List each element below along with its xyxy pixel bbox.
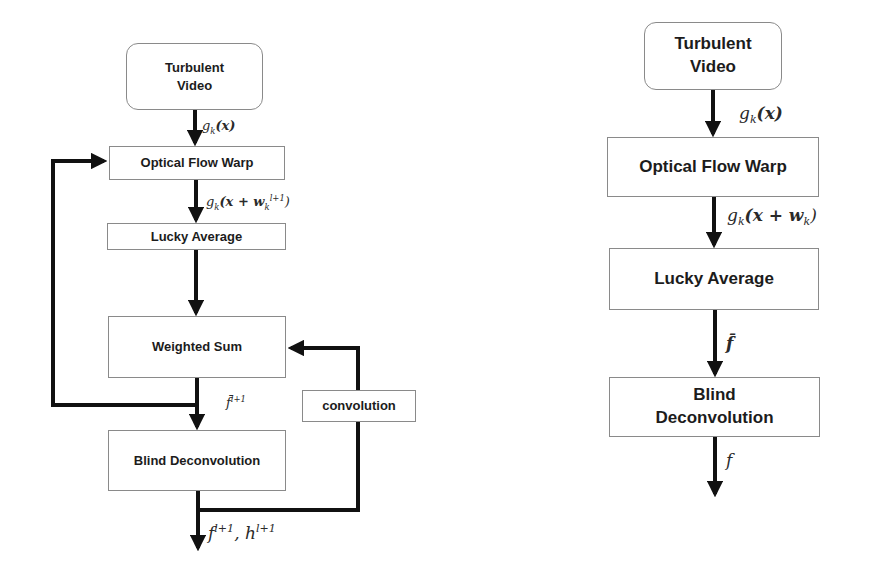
label-fbar-l1: f̄l+1 <box>226 394 246 410</box>
right-lucky-average-node: Lucky Average <box>609 248 819 310</box>
label-output-f-h: fl+1, hl+1 <box>208 522 276 543</box>
label-gk-x-plus-wk-l1: gk(x + wkl+1) <box>206 193 290 212</box>
left-optical-flow-warp-node: Optical Flow Warp <box>109 146 285 180</box>
r-label-fbar: f̄ <box>726 333 733 353</box>
right-blind-deconvolution-node: Blind Deconvolution <box>609 377 820 437</box>
left-lucky-average-node: Lucky Average <box>107 223 286 250</box>
left-turbulent-video-node: Turbulent Video <box>126 43 263 110</box>
label-close-paren: ) <box>810 205 817 225</box>
label-f-sup: l+1 <box>214 522 234 535</box>
label-separator: , <box>234 523 245 543</box>
r-label-gk-x: gk(x) <box>739 103 783 126</box>
r-label-gk-x-plus-wk: gk(x + wk) <box>727 205 817 228</box>
label-h: h <box>245 523 256 543</box>
label-sub-k: k <box>750 113 757 126</box>
label-g: g <box>739 103 750 123</box>
right-optical-flow-warp-node: Optical Flow Warp <box>607 137 819 197</box>
label-close-paren: ) <box>285 194 290 209</box>
label-sub-k: k <box>738 215 745 228</box>
label-fbar-sup: l+1 <box>231 394 246 404</box>
convolution-loop-upper <box>291 348 358 390</box>
left-weighted-sum-node: Weighted Sum <box>108 316 286 378</box>
label-x: (x) <box>757 103 783 123</box>
label-w-sub-k: k <box>265 202 270 212</box>
label-g: g <box>727 205 738 225</box>
label-x-plus-w: (x + w <box>745 205 804 225</box>
label-x: (x) <box>215 118 235 133</box>
label-gk-x: gk(x) <box>202 118 236 136</box>
left-convolution-node: convolution <box>302 390 416 422</box>
left-blind-deconvolution-node: Blind Deconvolution <box>108 430 286 491</box>
label-w-sup: l+1 <box>270 193 285 203</box>
label-x-plus-w: (x + w <box>219 194 264 209</box>
label-h-sup: l+1 <box>256 522 276 535</box>
right-turbulent-video-node: Turbulent Video <box>644 22 782 90</box>
diagram-canvas: Turbulent Video Optical Flow Warp Lucky … <box>0 0 893 571</box>
r-label-f: f <box>726 450 732 470</box>
